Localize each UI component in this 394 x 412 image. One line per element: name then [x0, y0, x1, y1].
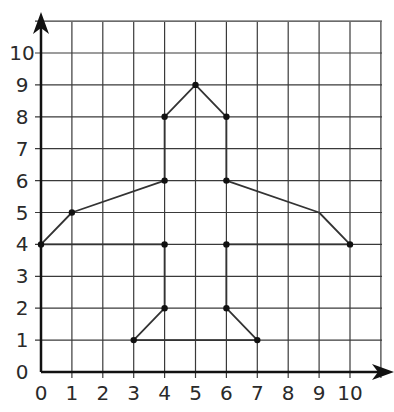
y-tick-label: 6 — [16, 169, 29, 193]
grid-lines — [35, 21, 382, 378]
y-tick-label: 10 — [9, 41, 34, 65]
vertex-point — [254, 337, 260, 343]
vertex-point — [192, 82, 198, 88]
vertex-point — [347, 241, 353, 247]
y-tick-label: 2 — [16, 296, 29, 320]
vertex-point — [38, 241, 44, 247]
y-tick-label: 5 — [16, 201, 29, 225]
vertex-point — [223, 177, 229, 183]
y-tick-label: 7 — [16, 137, 29, 161]
x-tick-label: 9 — [313, 381, 326, 405]
vertex-point — [223, 305, 229, 311]
axes — [33, 12, 394, 380]
x-tick-label: 8 — [282, 381, 295, 405]
y-tick-label: 9 — [16, 73, 29, 97]
vertex-point — [161, 305, 167, 311]
x-tick-label: 1 — [66, 381, 79, 405]
x-tick-label: 6 — [220, 381, 233, 405]
coordinate-grid: 012345678910012345678910 — [0, 0, 394, 412]
y-tick-label: 0 — [16, 360, 29, 384]
x-tick-label: 10 — [337, 381, 362, 405]
x-tick-label: 0 — [35, 381, 48, 405]
x-tick-label: 7 — [251, 381, 264, 405]
vertex-point — [223, 241, 229, 247]
vertex-point — [223, 114, 229, 120]
x-tick-label: 5 — [189, 381, 202, 405]
y-tick-label: 1 — [16, 328, 29, 352]
vertex-point — [131, 337, 137, 343]
y-tick-label: 4 — [16, 232, 29, 256]
vertex-point — [161, 177, 167, 183]
x-tick-label: 2 — [96, 381, 109, 405]
y-tick-label: 3 — [16, 264, 29, 288]
y-tick-label: 8 — [16, 105, 29, 129]
vertex-point — [161, 114, 167, 120]
vertex-point — [69, 209, 75, 215]
x-tick-label: 3 — [127, 381, 140, 405]
vertex-point — [161, 241, 167, 247]
x-tick-label: 4 — [158, 381, 171, 405]
